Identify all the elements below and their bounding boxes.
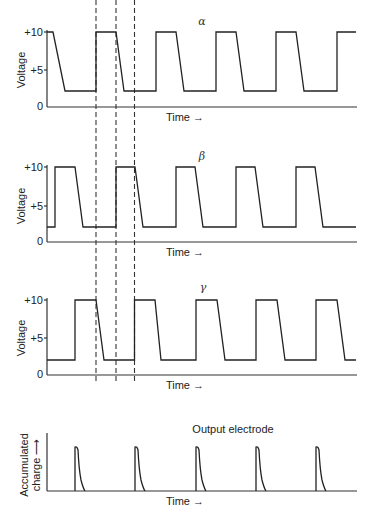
y-axis-title-line1: Accumulated (18, 433, 30, 497)
output-title: Output electrode (192, 423, 273, 435)
tick-label-10: +10 (24, 161, 43, 173)
charge-spike-4 (256, 447, 266, 491)
tick-label-10: +10 (24, 294, 43, 306)
tick-label-5: +5 (30, 64, 43, 76)
panel-output-electrode: Output electrode Accumulated charge ⟶ Ti… (18, 423, 357, 507)
ccd-clock-timing-diagram: +10 +5 0 Voltage Time → α +10 +5 0 Volta… (0, 0, 380, 522)
tick-label-10: +10 (24, 26, 43, 38)
charge-spike-5 (316, 447, 326, 491)
tick-label-0: 0 (37, 235, 43, 247)
phase-label-alpha: α (198, 15, 206, 28)
y-axis-title: Voltage (15, 188, 27, 225)
reference-dashed-lines (96, 0, 135, 384)
beta-waveform (47, 167, 356, 227)
panel-gamma: +10 +5 0 Voltage Time → γ (15, 281, 357, 391)
charge-spikes (75, 447, 326, 491)
x-axis-title: Time → (166, 379, 204, 391)
tick-label-0: 0 (37, 368, 43, 380)
y-axis-title-line2: charge ⟶ (30, 439, 42, 492)
charge-spike-2 (135, 447, 145, 491)
charge-spike-3 (196, 447, 206, 491)
alpha-waveform (47, 32, 356, 91)
tick-label-5: +5 (30, 200, 43, 212)
y-axis-title: Voltage (15, 52, 27, 89)
gamma-waveform (47, 300, 356, 360)
charge-spike-1 (75, 447, 85, 491)
x-axis-title: Time → (166, 246, 204, 258)
tick-label-0: 0 (37, 100, 43, 112)
panel-beta: +10 +5 0 Voltage Time → β (15, 150, 357, 258)
y-axis-title: Voltage (15, 320, 27, 357)
phase-label-gamma: γ (200, 281, 207, 294)
tick-label-5: +5 (30, 332, 43, 344)
panel-alpha: +10 +5 0 Voltage Time → α (15, 15, 357, 123)
x-axis-title: Time → (166, 495, 204, 507)
x-axis-title: Time → (166, 111, 204, 123)
phase-label-beta: β (198, 150, 205, 163)
